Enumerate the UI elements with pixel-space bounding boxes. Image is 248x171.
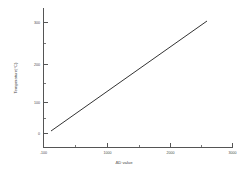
data-series-group bbox=[51, 21, 207, 131]
y-tick-labels: 0 100 200 300 bbox=[34, 21, 40, 136]
y-axis-title: Temperature(°C) bbox=[13, 62, 18, 94]
line-chart: -100 1000 2000 3000 0 100 200 300 ΔD val… bbox=[0, 0, 248, 171]
y-tick-label: 300 bbox=[34, 21, 40, 25]
x-tick-label: 1000 bbox=[104, 151, 112, 155]
x-tick-label: 3000 bbox=[229, 151, 237, 155]
x-tick-label: -100 bbox=[40, 151, 47, 155]
chart-figure: -100 1000 2000 3000 0 100 200 300 ΔD val… bbox=[0, 0, 248, 171]
y-tick-label: 200 bbox=[34, 63, 40, 67]
y-axis-ticks bbox=[44, 23, 48, 134]
x-tick-labels: -100 1000 2000 3000 bbox=[40, 151, 237, 155]
y-tick-label: 0 bbox=[38, 132, 40, 136]
y-tick-label: 100 bbox=[34, 101, 40, 105]
calibration-line bbox=[51, 21, 207, 131]
x-tick-label: 2000 bbox=[167, 151, 175, 155]
x-axis-title: ΔD value bbox=[116, 160, 134, 165]
x-axis-ticks bbox=[44, 143, 233, 147]
axes-group bbox=[43, 8, 233, 148]
